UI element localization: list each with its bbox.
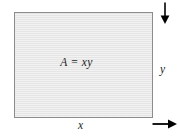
area-formula-label: A = xy xyxy=(0,56,153,68)
height-dimension-label: y xyxy=(160,63,165,75)
width-dimension-label: x xyxy=(78,119,83,131)
arrow-down-icon xyxy=(158,2,172,25)
rectangle-area-figure: A = xy y x xyxy=(0,0,180,139)
arrow-right-icon xyxy=(152,117,178,131)
